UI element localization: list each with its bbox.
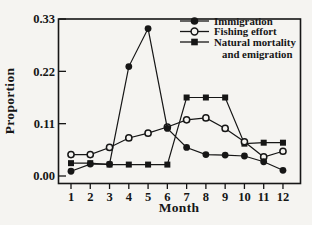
legend-label-line1: Natural mortality <box>214 36 296 48</box>
y-axis-title: Proportion <box>2 68 17 135</box>
filled-square-marker <box>203 95 209 101</box>
x-tick-label: 12 <box>277 190 290 204</box>
x-tick-label: 10 <box>238 190 251 204</box>
filled-circle-marker <box>280 167 287 174</box>
open-circle-marker <box>87 151 93 157</box>
x-tick-label: 2 <box>87 190 93 204</box>
filled-square-marker <box>164 162 170 168</box>
series-line-filled-square <box>71 98 283 165</box>
open-circle-marker <box>280 148 286 154</box>
filled-circle-marker <box>260 158 267 165</box>
filled-square-marker <box>280 140 286 146</box>
x-tick-label: 3 <box>106 190 112 204</box>
filled-circle-marker <box>241 153 248 160</box>
y-tick-label: 0.33 <box>33 12 55 26</box>
filled-square-marker <box>126 162 132 168</box>
filled-circle-marker <box>202 151 209 158</box>
open-circle-marker <box>222 125 228 131</box>
x-axis-title: Month <box>159 200 200 215</box>
filled-square-marker <box>68 160 74 166</box>
x-tick-label: 4 <box>126 190 133 204</box>
x-tick-label: 5 <box>145 190 151 204</box>
filled-circle-marker <box>145 25 152 32</box>
open-circle-marker <box>106 144 112 150</box>
filled-square-marker <box>184 95 190 101</box>
filled-circle-marker <box>106 161 113 168</box>
filled-circle-marker <box>183 144 190 151</box>
open-circle-marker <box>68 151 74 157</box>
x-tick-label: 8 <box>203 190 209 204</box>
open-circle-marker <box>126 135 132 141</box>
filled-circle-marker <box>222 152 229 159</box>
y-tick-label: 0.00 <box>33 169 55 183</box>
open-circle-marker <box>145 130 151 136</box>
filled-square-marker <box>145 162 151 168</box>
filled-circle-icon <box>191 17 199 25</box>
open-circle-marker <box>241 139 247 145</box>
line-chart-figure: 0.000.110.220.33 123456789101112 Month P… <box>0 0 312 225</box>
filled-square-icon <box>191 39 198 46</box>
y-tick-label: 0.11 <box>34 117 55 131</box>
chart-canvas: 0.000.110.220.33 123456789101112 Month P… <box>0 0 312 225</box>
filled-square-marker <box>222 95 228 101</box>
filled-circle-marker <box>125 63 132 70</box>
legend-label-line2: and emigration <box>222 48 292 60</box>
filled-square-marker <box>261 140 267 146</box>
x-tick-label: 1 <box>68 190 74 204</box>
y-tick-label: 0.22 <box>33 65 55 79</box>
filled-circle-marker <box>68 168 75 175</box>
filled-circle-marker <box>87 161 94 168</box>
open-circle-marker <box>203 115 209 121</box>
legend-item-natural-mortality: Natural mortality and emigration <box>180 36 296 60</box>
filled-circle-marker <box>164 125 171 132</box>
open-circle-marker <box>184 117 190 123</box>
x-tick-label: 11 <box>258 190 270 204</box>
y-axis-ticks: 0.000.110.220.33 <box>33 12 66 183</box>
legend: Immigration Fishing effort Natural morta… <box>180 15 296 60</box>
open-circle-icon <box>191 28 198 35</box>
x-tick-label: 9 <box>222 190 228 204</box>
